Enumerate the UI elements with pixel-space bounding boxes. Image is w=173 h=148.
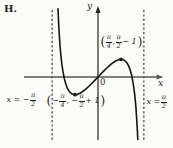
y-axis-arrow-icon <box>96 6 101 13</box>
function-plot <box>0 0 173 148</box>
min-point-label: (− π4, − π2 + 1) <box>46 93 106 110</box>
right-asymptote-label: x = π2 <box>146 94 167 111</box>
y-axis-label: y <box>87 2 92 11</box>
x-axis-label: x <box>158 79 163 88</box>
max-point-dot <box>119 57 123 61</box>
figure-answer-choice-h: H. y x 0 (π4, π2 − 1) (− π4, − π2 + 1) x… <box>0 0 173 148</box>
left-asymptote-label: x = − π2 <box>6 92 36 109</box>
max-point-label: (π4, π2 − 1) <box>100 34 143 51</box>
origin-label: 0 <box>100 78 105 87</box>
